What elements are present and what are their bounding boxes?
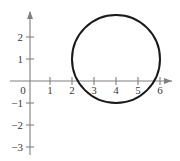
x-tick-label-1: 1 (44, 85, 56, 96)
x-tick-label-5: 5 (132, 85, 144, 96)
plot-canvas (0, 0, 180, 161)
plot-figure: 0 1 2 3 4 5 6 2 1 −1 −2 −3 (0, 0, 180, 161)
y-tick-label-minus-3: −3 (0, 142, 23, 153)
y-tick-label-minus-1: −1 (0, 98, 23, 109)
y-axis-arrowhead (27, 11, 33, 19)
y-tick-label-2: 2 (4, 32, 23, 43)
x-tick-label-2: 2 (66, 85, 78, 96)
x-tick-label-6: 6 (154, 85, 166, 96)
origin-tick-label: 0 (17, 85, 29, 96)
x-tick-label-4: 4 (110, 85, 122, 96)
y-tick-label-minus-2: −2 (0, 120, 23, 131)
y-tick-label-1: 1 (4, 54, 23, 65)
x-axis-arrowhead (164, 78, 172, 84)
x-tick-label-3: 3 (88, 85, 100, 96)
